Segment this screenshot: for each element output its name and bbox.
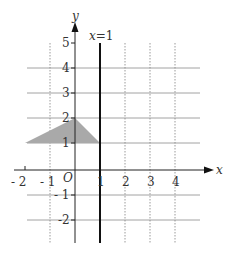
x-tick-label-2: 2 xyxy=(122,175,130,189)
x-tick-label-neg2: - 2 xyxy=(11,175,27,189)
line-label-eq: =1 xyxy=(96,29,114,43)
x-axis-arrow-icon xyxy=(204,167,214,174)
x-tick-label-neg1: - 1 xyxy=(40,175,56,189)
x-tick-label-3: 3 xyxy=(147,175,155,189)
y-axis-arrow-icon xyxy=(72,22,79,32)
x-tick-label-4: 4 xyxy=(172,175,180,189)
x-axis-label: x xyxy=(216,163,223,177)
y-tick-label-1: 1 xyxy=(62,136,70,150)
y-tick-label-4: 4 xyxy=(62,61,70,75)
line-label: x=1 xyxy=(89,29,113,43)
y-tick-label-neg1: - 1 xyxy=(54,188,70,202)
y-tick-label-3: 3 xyxy=(62,86,70,100)
horizontal-gridlines xyxy=(27,68,200,220)
y-tick-label-2: 2 xyxy=(62,111,70,125)
y-tick-label-neg2: -2 xyxy=(58,213,70,227)
origin-label: O xyxy=(63,171,73,185)
y-axis-label: y xyxy=(71,9,79,23)
coordinate-plane: y x O x=1 5 4 3 2 1 - 1 -2 - 2 - 1 1 2 3… xyxy=(0,0,227,260)
x-tick-label-1: 1 xyxy=(97,175,105,189)
y-tick-label-5: 5 xyxy=(62,36,70,50)
